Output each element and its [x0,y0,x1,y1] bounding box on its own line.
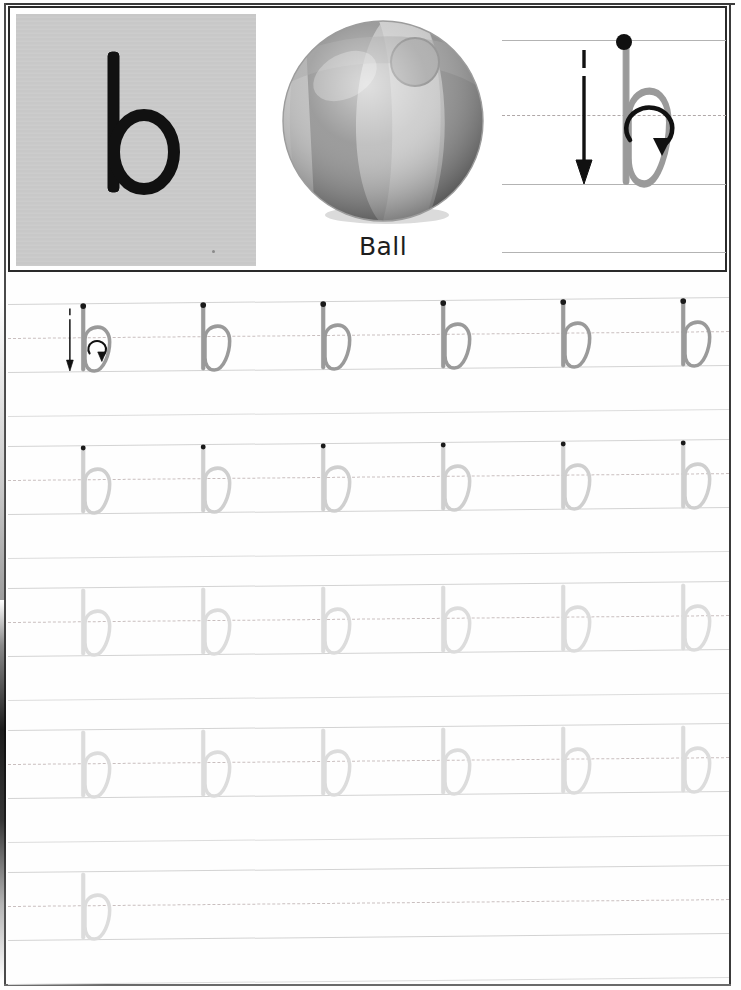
down-arrow-icon [576,50,592,184]
scan-artifact-upper [0,300,5,600]
stroke-order-model [502,12,726,268]
worksheet-page: Ball [0,0,741,990]
picture-beach-ball [268,16,498,231]
page-border-top [4,3,735,5]
row-5-separator [8,977,729,985]
scan-artifact-left-edge [0,600,6,980]
model-letter-b-icon [502,12,726,268]
trace-letter[interactable] [64,871,122,939]
page-border-right [729,3,731,986]
picture-caption: Ball [268,232,498,266]
beach-ball-icon [268,16,498,231]
letter-model-card [16,14,256,266]
practice-row[interactable] [8,276,729,986]
letter-b-trace-icon [64,871,122,939]
scan-speck [212,250,215,253]
practice-area [8,276,729,986]
header-panel: Ball [8,6,727,272]
start-dot-icon [616,34,632,50]
big-letter-b-icon [16,14,256,266]
circle-arrow-icon [626,108,672,156]
